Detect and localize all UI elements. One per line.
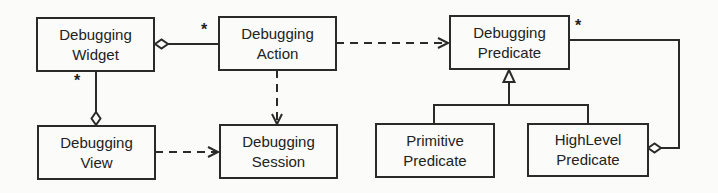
class-name-line1: Debugging [241, 24, 314, 44]
class-name-line1: Debugging [473, 23, 546, 43]
class-name-line1: Debugging [60, 133, 133, 153]
class-name-line2: View [80, 153, 112, 173]
class-name-line2: Session [252, 152, 305, 172]
class-name-line1: HighLevel [555, 130, 622, 150]
multiplicity-highlevel-predicate: * [575, 17, 581, 35]
generalization-branches [434, 105, 588, 123]
multiplicity-widget-action: * [201, 21, 207, 39]
aggregation-diamond-icon [92, 112, 101, 125]
class-debugging-session: Debugging Session [219, 124, 338, 179]
aggregation-diamond-icon [648, 144, 661, 153]
class-debugging-view: Debugging View [37, 125, 156, 180]
class-debugging-action: Debugging Action [218, 16, 337, 71]
class-highlevel-predicate: HighLevel Predicate [527, 123, 649, 177]
aggregation-diamond-icon [155, 40, 168, 49]
generalization-triangle-icon [504, 70, 515, 82]
multiplicity-widget-view: * [74, 72, 80, 90]
class-name-line1: Debugging [59, 25, 132, 45]
class-name-line2: Predicate [556, 150, 619, 170]
class-debugging-widget: Debugging Widget [36, 17, 155, 72]
class-primitive-predicate: Primitive Predicate [375, 123, 495, 178]
class-name-line1: Debugging [242, 132, 315, 152]
class-name-line2: Action [257, 44, 299, 64]
class-name-line2: Predicate [478, 43, 541, 63]
class-name-line2: Predicate [403, 151, 466, 171]
class-debugging-predicate: Debugging Predicate [449, 15, 570, 70]
class-name-line2: Widget [72, 45, 119, 65]
class-name-line1: Primitive [406, 131, 464, 151]
